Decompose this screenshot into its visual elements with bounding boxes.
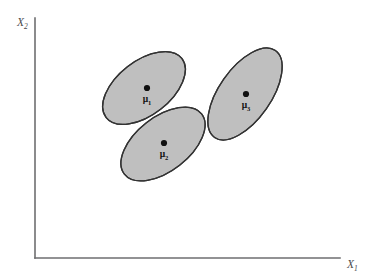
scatter-ellipse-diagram: μ1μ2μ3 X2 X1: [0, 0, 365, 280]
mean-dot-2: [161, 140, 167, 146]
mean-dot-3: [243, 91, 249, 97]
mean-dot-1: [144, 85, 150, 91]
figure-canvas: μ1μ2μ3 X2 X1: [0, 0, 365, 280]
